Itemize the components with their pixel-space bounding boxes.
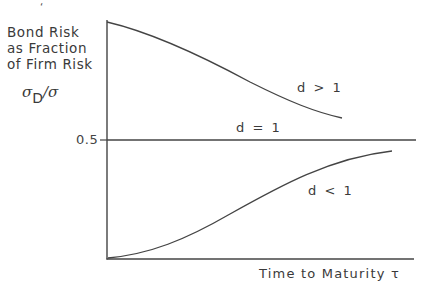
x-axis-label: Time to Maturity τ — [259, 266, 400, 281]
plot-area — [0, 0, 425, 288]
series-d-gt-1 — [107, 22, 342, 118]
series-d-lt-1 — [108, 151, 392, 258]
label-d-lt-1: d < 1 — [308, 183, 354, 198]
label-d-gt-1: d > 1 — [297, 80, 343, 95]
label-d-eq-1: d = 1 — [236, 120, 282, 135]
